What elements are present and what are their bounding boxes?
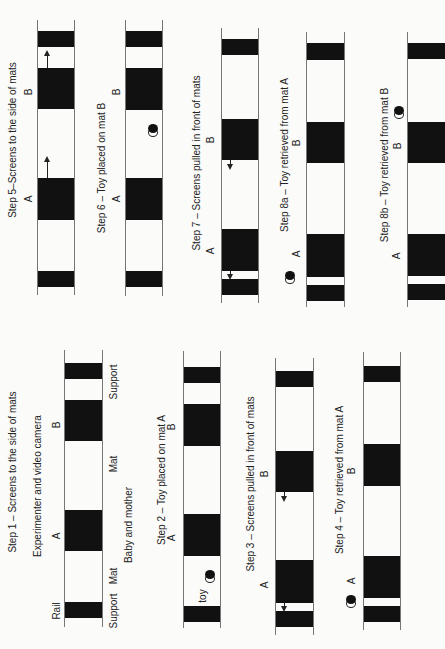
support-block <box>364 606 400 622</box>
mat-b-block <box>184 404 220 446</box>
label-b: B <box>23 89 35 96</box>
support-label: Support <box>108 593 120 628</box>
mat-b-block <box>276 451 313 492</box>
toy-label: toy <box>197 589 209 602</box>
support-block <box>184 606 220 622</box>
panel-title: Step 4 – Toy retrieved from mat A <box>334 406 346 554</box>
toy-icon <box>394 107 404 119</box>
support-block <box>126 31 162 47</box>
rail-line <box>64 350 65 627</box>
panel-title: Step 6 – Toy placed on mat B <box>96 103 108 233</box>
label-b: B <box>291 140 303 147</box>
label-a: A <box>346 578 358 585</box>
rail-line <box>125 20 126 296</box>
support-block <box>38 31 74 47</box>
mat-b-block <box>222 119 258 160</box>
rail-label: Rail <box>51 602 63 619</box>
panel-title: Step 8b – Toy retrieved from mat B <box>379 88 391 242</box>
rail-line <box>313 358 314 635</box>
mat-a-block <box>184 514 220 556</box>
experimenter-label: Experimenter and video camera <box>32 415 44 557</box>
mat-a-block <box>307 234 344 277</box>
label-a: A <box>259 582 271 589</box>
mat-a-block <box>276 560 313 603</box>
mat-a-block <box>126 178 162 220</box>
label-b: B <box>111 89 123 96</box>
label-a: A <box>166 535 178 542</box>
support-label: Support <box>108 364 120 399</box>
mat-b-block <box>307 122 344 163</box>
toy-icon <box>346 596 356 608</box>
toy-icon <box>285 272 295 284</box>
support-block <box>184 367 220 383</box>
panel-title: Step 5–Screens to the side of mats <box>7 62 19 218</box>
mat-b-block <box>38 68 74 109</box>
arrow-down-icon <box>284 603 285 608</box>
support-block <box>126 271 162 287</box>
rail-line <box>183 351 184 628</box>
mat-b-block <box>65 400 102 441</box>
mat-a-block <box>408 234 445 276</box>
label-a: A <box>23 196 35 203</box>
label-b: B <box>259 471 271 478</box>
baby-mother-label: Baby and mother <box>123 487 135 563</box>
label-b: B <box>51 422 63 429</box>
mat-a-block <box>222 229 258 271</box>
panel-title: Step 8a – Toy retrieved from mat A <box>279 78 291 232</box>
mat-b-block <box>408 122 445 163</box>
support-block <box>222 39 258 55</box>
support-block <box>38 271 74 287</box>
rail-line <box>344 32 345 307</box>
mat-a-block <box>38 178 74 220</box>
arrow-down-icon <box>230 160 231 166</box>
mat-b-block <box>364 444 400 486</box>
arrow-up-icon <box>47 54 48 68</box>
label-a: A <box>205 248 217 255</box>
panel-title: Step 7 – Screens pulled in front of mats <box>191 75 203 250</box>
label-b: B <box>166 424 178 431</box>
panel-title: Step 1 – Screens to the side of mats <box>7 391 19 552</box>
rail-line <box>37 20 38 295</box>
mat-a-block <box>364 556 400 598</box>
label-b: B <box>392 143 404 150</box>
panel-title: Step 3 – Screens pulled in front of mats <box>245 396 257 571</box>
rail-line <box>220 351 221 628</box>
support-block <box>307 43 344 60</box>
support-block <box>307 285 344 301</box>
panel-title: Step 2 – Toy placed on mat A <box>156 415 168 545</box>
toy-icon <box>205 571 215 583</box>
support-block <box>408 284 445 300</box>
toy-icon <box>148 125 158 137</box>
rail-line <box>400 352 401 630</box>
support-block <box>65 602 102 618</box>
mat-a-block <box>65 510 102 551</box>
arrow-down-icon <box>230 271 231 276</box>
label-a: A <box>291 251 303 258</box>
arrow-down-icon <box>284 492 285 498</box>
arrow-up-icon <box>47 160 48 178</box>
label-b: B <box>346 468 358 475</box>
rail-line <box>258 28 259 303</box>
mat-label: Mat <box>108 456 120 473</box>
rail-line <box>102 350 103 627</box>
mat-b-block <box>126 68 162 110</box>
support-block <box>65 363 102 379</box>
rail-line <box>74 20 75 295</box>
label-a: A <box>111 196 123 203</box>
mat-label: Mat <box>108 568 120 585</box>
support-block <box>276 611 313 627</box>
label-b: B <box>205 137 217 144</box>
label-a: A <box>51 533 63 540</box>
rail-line <box>162 20 163 296</box>
label-a: A <box>391 253 403 260</box>
support-block <box>222 279 258 295</box>
support-block <box>408 43 445 59</box>
support-block <box>276 371 313 387</box>
support-block <box>364 366 400 382</box>
